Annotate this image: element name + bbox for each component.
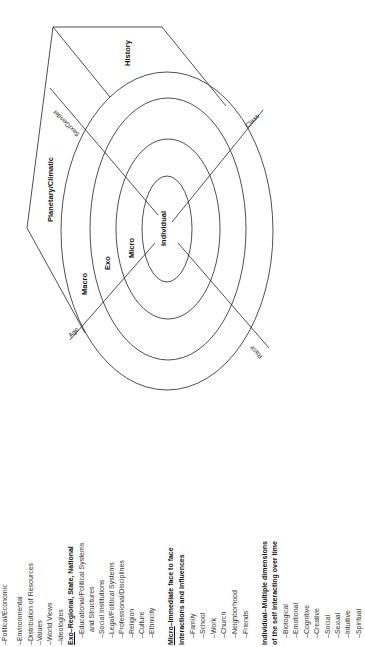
exo-item: –Legal/Political Systems	[107, 562, 116, 638]
individual-item: –Biological	[281, 604, 290, 638]
macro-item: –Environmental	[15, 596, 24, 645]
exo-item: –Ethnicity	[147, 608, 156, 638]
planetary-lower-edge	[27, 228, 85, 333]
label-individual: Individual	[159, 211, 168, 246]
individual-item: –Intuitive	[343, 610, 352, 638]
exo-item: –Culture	[137, 612, 146, 638]
macro-item: –Values	[35, 620, 44, 645]
label-class: Class	[244, 112, 261, 129]
exo-item: –Professional/Disciplines	[117, 560, 126, 638]
exo-ring	[90, 98, 246, 360]
micro-item: –Church	[219, 612, 228, 638]
macro-item: –World Views	[45, 602, 54, 645]
label-micro: Micro	[127, 238, 136, 258]
exo-item: –Educational/Political Systems	[77, 543, 86, 638]
macro-item: –Political/Economic	[0, 584, 9, 645]
individual-item: –Social	[323, 615, 332, 638]
micro-item: –Family	[188, 613, 197, 638]
micro-item: –School	[198, 613, 207, 638]
history-divider	[53, 27, 110, 97]
individual-item: –Sexual	[333, 613, 342, 638]
label-planetary-climatic: Planetary/Climatic	[46, 157, 55, 222]
individual-item: –Creative	[312, 608, 321, 638]
micro-item: –Neighborhood	[230, 590, 239, 638]
individual-item: –Spiritual	[354, 609, 363, 638]
macro-item: –Ideologies	[56, 609, 65, 645]
micro-heading-line2: interactions and influences	[177, 554, 186, 645]
label-age: Age	[67, 325, 81, 339]
individual-heading-line2: of the self interacting over time	[270, 541, 279, 645]
label-history: History	[123, 39, 132, 66]
micro-ring	[116, 139, 220, 319]
exo-item: –Social Institutions	[97, 580, 106, 638]
exo-item: and Structures	[87, 586, 96, 632]
macro-item: –Distribution of Resources	[26, 563, 35, 645]
exo-item: –Religion	[127, 609, 136, 638]
label-exo: Exo	[103, 256, 112, 270]
micro-item: –Work	[209, 618, 218, 638]
label-macro: Macro	[80, 272, 89, 295]
individual-item: –Emotional	[291, 603, 300, 638]
micro-item: –Friends	[241, 611, 250, 638]
micro-heading: Micro–Immediate face to face	[166, 547, 175, 645]
individual-item: –Cognitive	[302, 605, 311, 638]
individual-heading: Individual–Multiple dimensions	[260, 541, 269, 645]
label-sex-gender: Sex/Gender	[51, 108, 81, 138]
exo-heading: Exo–Regional, State, National	[66, 546, 75, 645]
label-race: Race	[248, 344, 264, 360]
sexgender-race-axis-lower	[178, 243, 269, 348]
ecological-model-diagram: Individual Micro Exo Macro Planetary/Cli…	[0, 0, 365, 647]
